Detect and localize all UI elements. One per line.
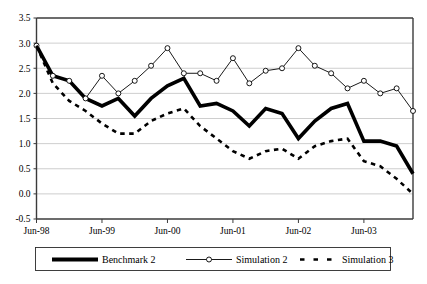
y-tick-label: 0.0 xyxy=(19,189,31,199)
data-point-marker xyxy=(132,78,137,83)
legend-item-simulation-2: Simulation 2 xyxy=(186,254,287,265)
x-tick-label: Jun-99 xyxy=(89,226,115,236)
line-chart: 3.53.02.52.01.51.00.50.0-0.5 Jun-98Jun-9… xyxy=(0,0,427,284)
legend-label: Benchmark 2 xyxy=(102,254,156,265)
legend-item-benchmark-2: Benchmark 2 xyxy=(52,254,156,265)
legend-item-simulation-3: Simulation 3 xyxy=(300,254,393,265)
x-tick-label: Jun-98 xyxy=(24,226,50,236)
data-point-marker xyxy=(67,78,72,83)
data-point-marker xyxy=(181,71,186,76)
data-point-marker xyxy=(165,46,170,51)
data-point-marker xyxy=(247,81,252,86)
legend: Benchmark 2Simulation 2Simulation 3 xyxy=(52,254,393,265)
x-tick-label: Jun-01 xyxy=(220,226,246,236)
gridlines xyxy=(34,18,414,219)
legend-label: Simulation 3 xyxy=(342,254,393,265)
y-tick-label: 3.5 xyxy=(19,13,31,23)
chart-container: 3.53.02.52.01.51.00.50.0-0.5 Jun-98Jun-9… xyxy=(0,0,427,284)
y-tick-label: 1.5 xyxy=(19,114,31,124)
y-tick-label: 3.0 xyxy=(19,39,31,49)
data-point-marker xyxy=(329,71,334,76)
data-point-marker xyxy=(378,91,383,96)
data-point-marker xyxy=(280,66,285,71)
data-point-marker xyxy=(50,73,55,78)
data-point-marker xyxy=(99,73,104,78)
data-point-marker xyxy=(263,68,268,73)
x-tick-label: Jun-02 xyxy=(285,226,311,236)
x-tick-label: Jun-00 xyxy=(155,226,181,236)
x-axis-tick-labels: Jun-98Jun-99Jun-00Jun-01Jun-02Jun-03 xyxy=(24,226,378,236)
x-tick-label: Jun-03 xyxy=(351,226,377,236)
data-point-marker xyxy=(361,78,366,83)
data-point-marker xyxy=(394,86,399,91)
data-point-marker xyxy=(116,91,121,96)
data-point-marker xyxy=(230,56,235,61)
y-tick-label: 2.5 xyxy=(19,64,31,74)
series-benchmark-2 xyxy=(37,46,414,174)
data-point-marker xyxy=(83,96,88,101)
data-point-marker xyxy=(411,108,416,113)
data-point-marker xyxy=(214,78,219,83)
data-point-marker xyxy=(198,71,203,76)
data-point-marker xyxy=(345,86,350,91)
y-tick-label: 0.5 xyxy=(19,164,31,174)
data-point-marker xyxy=(149,63,154,68)
y-tick-label: 2.0 xyxy=(19,89,31,99)
data-point-marker xyxy=(312,63,317,68)
legend-label: Simulation 2 xyxy=(236,254,287,265)
data-point-marker xyxy=(296,46,301,51)
y-axis-tick-labels: 3.53.02.52.01.51.00.50.0-0.5 xyxy=(15,13,30,224)
y-tick-label: 1.0 xyxy=(19,139,31,149)
y-tick-label: -0.5 xyxy=(15,214,30,224)
